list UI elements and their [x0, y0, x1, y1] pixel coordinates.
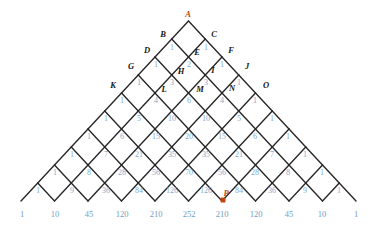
base-number: 1	[354, 210, 358, 219]
base-number: 1	[20, 210, 24, 219]
vertex-label-k: K	[110, 81, 116, 90]
cell-number: 1	[70, 151, 74, 159]
cell-number: 5	[137, 115, 141, 123]
cell-number: 1	[154, 61, 158, 69]
base-number: 120	[250, 210, 263, 219]
cell-number: 8	[87, 169, 91, 177]
lattice-edge	[172, 75, 189, 93]
cell-number: 6	[187, 97, 191, 105]
cell-number: 35	[202, 151, 210, 159]
lattice-edge	[289, 129, 306, 147]
cell-number: 9	[303, 187, 307, 195]
cell-number: 21	[235, 151, 243, 159]
cell-number: 8	[286, 169, 290, 177]
lattice-edge	[323, 165, 340, 183]
cell-number: 1	[320, 169, 324, 177]
lattice-edge	[272, 147, 289, 165]
vertex-label-n: N	[229, 84, 235, 93]
cell-number: 1	[87, 133, 91, 141]
base-number: 210	[216, 210, 229, 219]
cell-number: 3	[170, 79, 174, 87]
cell-number: 1	[137, 79, 141, 87]
vertex-label-o: O	[263, 81, 269, 90]
lattice-edge	[122, 75, 139, 93]
lattice-edge	[189, 57, 206, 75]
lattice-edge	[189, 93, 206, 111]
cell-number: 1	[253, 97, 257, 105]
vertex-label-d: D	[144, 46, 150, 55]
cell-number: 21	[135, 151, 143, 159]
lattice-edge	[71, 165, 88, 183]
vertex-label-a: A	[185, 10, 191, 19]
lattice-edge	[306, 183, 323, 201]
base-number: 45	[85, 210, 94, 219]
cell-number: 1	[120, 97, 124, 105]
vertex-label-f: F	[228, 46, 234, 55]
cell-number: 5	[237, 115, 241, 123]
cell-number: 7	[270, 151, 274, 159]
vertex-label-h: H	[178, 67, 185, 76]
lattice-edge	[172, 21, 189, 39]
cell-number: 15	[218, 133, 226, 141]
lattice-edge	[289, 165, 306, 183]
base-number: 10	[51, 210, 60, 219]
lattice-edge	[256, 93, 273, 111]
lattice-edge	[172, 93, 189, 111]
cell-number: 1	[237, 79, 241, 87]
lattice-edge	[222, 57, 239, 75]
cell-number: 9	[70, 187, 74, 195]
cell-number: 36	[268, 187, 276, 195]
cell-number: 4	[220, 97, 224, 105]
lattice-edge	[138, 57, 155, 75]
lattice-edge	[38, 165, 55, 183]
lattice-edge	[122, 93, 139, 111]
lattice-edge	[339, 183, 356, 201]
cell-number: 1	[104, 115, 108, 123]
lattice-edge	[222, 93, 239, 111]
lattice-edge	[105, 129, 122, 147]
cell-number: 28	[118, 169, 126, 177]
cell-number: 15	[152, 133, 160, 141]
cell-number: 35	[168, 151, 176, 159]
cell-number: 1	[337, 187, 341, 195]
cell-number: 2	[187, 61, 191, 69]
cell-number: 1	[286, 133, 290, 141]
cell-number: 6	[253, 133, 257, 141]
lattice-edge	[138, 93, 155, 111]
lattice-edge	[306, 147, 323, 165]
cell-number: 20	[185, 133, 193, 141]
lattice-edge	[122, 129, 139, 147]
cell-number: 1	[220, 61, 224, 69]
lattice-edge	[239, 75, 256, 93]
cell-number: 1	[204, 44, 208, 52]
cell-number: 28	[251, 169, 259, 177]
lattice-edge	[71, 129, 88, 147]
base-number: 252	[183, 210, 196, 219]
base-number: 45	[285, 210, 294, 219]
lattice-edge	[239, 111, 256, 129]
lattice-edge	[105, 93, 122, 111]
cell-number: 7	[104, 151, 108, 159]
lattice-edge	[88, 147, 105, 165]
figure-canvas: ABCDEFGHIJKLMNOP 11121133114641151010511…	[0, 0, 380, 227]
lattice-edge	[38, 183, 55, 201]
base-number: 10	[318, 210, 327, 219]
cell-number: 84	[235, 187, 243, 195]
vertex-label-m: M	[196, 85, 204, 94]
cell-number: 56	[218, 169, 226, 177]
cell-number: 4	[154, 97, 158, 105]
vertex-label-i: I	[211, 66, 214, 75]
cell-number: 56	[152, 169, 160, 177]
lattice-edge	[122, 111, 139, 129]
cell-number: 3	[204, 79, 208, 87]
lattice-edge	[189, 21, 206, 39]
base-number: 120	[116, 210, 129, 219]
vertex-label-p: P	[223, 189, 228, 198]
lattice-grid	[0, 0, 380, 227]
cell-number: 126	[200, 187, 212, 195]
cell-number: 10	[168, 115, 176, 123]
cell-number: 1	[170, 44, 174, 52]
base-number: 210	[150, 210, 163, 219]
cell-number: 6	[120, 133, 124, 141]
vertex-label-b: B	[160, 30, 166, 39]
